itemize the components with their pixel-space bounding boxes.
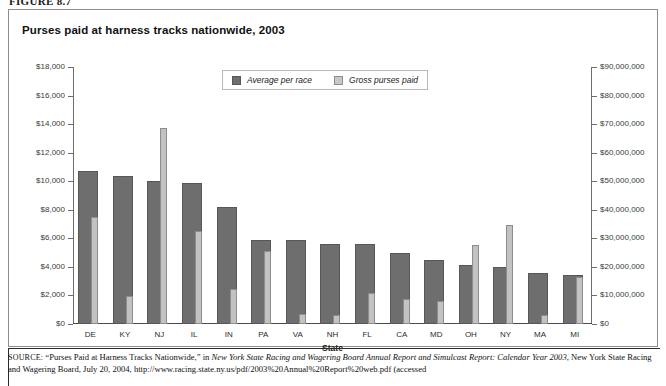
bar-group [142,67,177,324]
bar-group [384,67,419,324]
bar-gross-purses-paid [91,217,98,324]
bar-gross-purses-paid [160,128,167,324]
bar-gross-purses-paid [403,299,410,324]
bar-gross-purses-paid [126,296,133,324]
x-axis-tick-label: NH [315,330,350,339]
right-axis-tick-label: $20,000,000 [600,263,645,271]
legend-label-average-per-race: Average per race [247,75,312,85]
source-note: SOURCE: “Purses Paid at Harness Tracks N… [8,352,660,375]
bar-gross-purses-paid [333,315,340,324]
left-axis-tick-label: $18,000 [36,63,65,71]
bar-gross-purses-paid [195,231,202,324]
bar-group [281,67,316,324]
bar-group [523,67,558,324]
right-axis-tick-label: $50,000,000 [600,177,645,185]
plot-area: $0$2,000$4,000$6,000$8,000$10,000$12,000… [73,67,592,324]
legend-swatch-gross-purses-paid [334,76,343,85]
right-axis-tick [592,181,597,182]
left-axis-tick-label: $0 [56,320,65,328]
right-axis-tick-label: $10,000,000 [600,291,645,299]
left-axis-tick-label: $12,000 [36,149,65,157]
source-publication-title: New York State Racing and Wagering Board… [211,352,566,362]
bar-gross-purses-paid [506,225,513,324]
bar-group [246,67,281,324]
right-axis-tick [592,324,597,325]
right-axis-tick [592,267,597,268]
left-axis-tick-label: $6,000 [41,234,65,242]
right-axis-tick [592,238,597,239]
left-axis-tick-label: $16,000 [36,92,65,100]
right-axis-tick [592,124,597,125]
bar-group [419,67,454,324]
right-axis-tick [592,153,597,154]
x-axis-tick-label: KY [108,330,143,339]
source-top-rule [8,348,660,349]
x-axis-tick-label: CA [384,330,419,339]
x-axis-tick-label: PA [246,330,281,339]
left-axis-tick-label: $4,000 [41,263,65,271]
bar-gross-purses-paid [576,277,583,324]
legend-label-gross-purses-paid: Gross purses paid [349,75,418,85]
chart-title: Purses paid at harness tracks nationwide… [22,24,285,36]
figure-number-label: FIGURE 8.7 [9,0,71,7]
bar-gross-purses-paid [368,293,375,324]
legend-item-average-per-race: Average per race [232,75,312,85]
right-axis-tick [592,210,597,211]
right-axis-tick-label: $90,000,000 [600,63,645,71]
x-axis-tick-label: IL [177,330,212,339]
x-axis-tick-label: VA [281,330,316,339]
source-text-part-1: “Purses Paid at Harness Tracks Nationwid… [45,352,211,362]
right-axis-tick-label: $80,000,000 [600,92,645,100]
right-axis-tick [592,96,597,97]
bar-group [177,67,212,324]
bar-gross-purses-paid [541,315,548,324]
bar-gross-purses-paid [299,314,306,324]
bar-group [488,67,523,324]
chart-legend: Average per race Gross purses paid [222,70,428,90]
bar-average-per-race [320,244,340,324]
source-prefix: SOURCE: [8,353,43,362]
bar-group [73,67,108,324]
right-axis-tick [592,67,597,68]
right-axis-tick-label: $70,000,000 [600,120,645,128]
bar-average-per-race [286,240,306,324]
bar-group [211,67,246,324]
bar-group [557,67,592,324]
right-axis-tick-label: $30,000,000 [600,234,645,242]
x-axis-tick-label: NY [488,330,523,339]
legend-swatch-average-per-race [232,76,241,85]
chart-frame: Purses paid at harness tracks nationwide… [8,9,658,347]
x-axis-tick-label: MI [557,330,592,339]
x-axis-tick-label: IN [211,330,246,339]
x-axis-tick-label: NJ [142,330,177,339]
right-axis-tick-label: $60,000,000 [600,149,645,157]
legend-item-gross-purses-paid: Gross purses paid [334,75,418,85]
left-axis-tick [68,324,73,325]
right-axis-tick [592,295,597,296]
bar-group [315,67,350,324]
right-axis-tick-label: $0 [600,320,609,328]
x-axis-tick-label: MD [419,330,454,339]
x-axis-tick-label: MA [523,330,558,339]
x-axis-tick-label: FL [350,330,385,339]
bar-gross-purses-paid [230,289,237,324]
bar-group [350,67,385,324]
bar-gross-purses-paid [472,245,479,324]
right-axis-tick-label: $40,000,000 [600,206,645,214]
bar-group [454,67,489,324]
x-axis-tick-label: DE [73,330,108,339]
bar-gross-purses-paid [437,301,444,324]
left-axis-tick-label: $10,000 [36,177,65,185]
x-axis-tick-label: OH [454,330,489,339]
left-axis-tick-label: $2,000 [41,291,65,299]
bar-group [108,67,143,324]
left-axis-tick-label: $14,000 [36,120,65,128]
bar-gross-purses-paid [264,251,271,324]
left-axis-tick-label: $8,000 [41,206,65,214]
